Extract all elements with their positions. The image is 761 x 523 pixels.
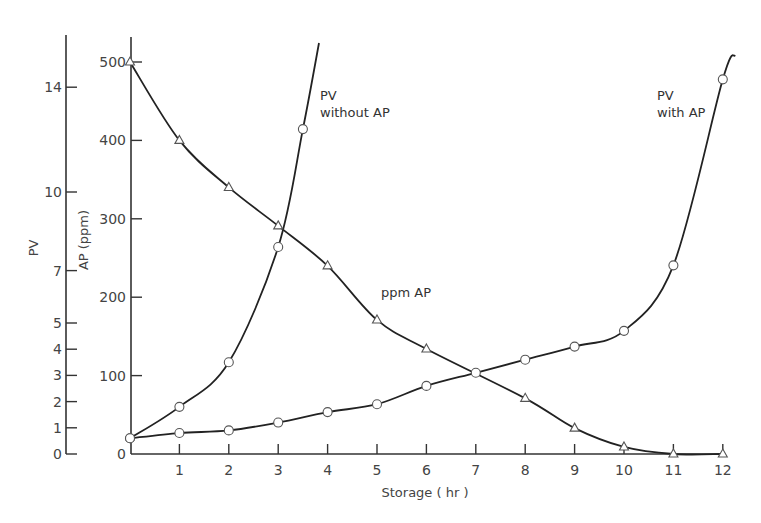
plot-markers [126, 57, 728, 457]
svg-text:300: 300 [99, 211, 126, 227]
svg-text:14: 14 [44, 79, 62, 95]
circle-marker-icon [373, 400, 382, 409]
svg-text:1: 1 [175, 462, 184, 478]
circle-marker-icon [669, 261, 678, 270]
svg-text:4: 4 [323, 462, 332, 478]
pv-without-ap-label: PV [320, 88, 337, 103]
svg-text:500: 500 [99, 54, 126, 70]
circle-marker-icon [620, 326, 629, 335]
svg-text:7: 7 [53, 263, 62, 279]
svg-text:2: 2 [224, 462, 233, 478]
svg-text:0: 0 [53, 446, 62, 462]
pv-without-ap-label: without AP [320, 105, 390, 120]
circle-marker-icon [126, 434, 135, 443]
circle-marker-icon [224, 358, 233, 367]
pv-with-ap-label: PV [657, 88, 674, 103]
svg-text:1: 1 [53, 420, 62, 436]
svg-text:9: 9 [570, 462, 579, 478]
ppm-ap-curve [130, 62, 723, 455]
circle-marker-icon [718, 75, 727, 84]
pv-without-ap-curve [130, 43, 319, 438]
svg-text:400: 400 [99, 132, 126, 148]
circle-marker-icon [570, 342, 579, 351]
svg-text:10: 10 [615, 462, 633, 478]
pv-with-ap-label: with AP [657, 105, 706, 120]
pv-axis-title: PV [26, 240, 41, 257]
svg-text:3: 3 [53, 367, 62, 383]
svg-text:12: 12 [714, 462, 732, 478]
circle-marker-icon [175, 402, 184, 411]
svg-text:5: 5 [53, 315, 62, 331]
circle-marker-icon [521, 355, 530, 364]
circle-marker-icon [274, 418, 283, 427]
circle-marker-icon [422, 381, 431, 390]
x-axis-title: Storage ( hr ) [382, 485, 469, 500]
svg-text:10: 10 [44, 184, 62, 200]
ap-axis-title: AP (ppm) [76, 210, 91, 270]
chart-canvas: 01234571014 0100200300400500 12345678910… [0, 0, 761, 523]
x-axis: 123456789101112 [131, 444, 732, 478]
circle-marker-icon [175, 429, 184, 438]
svg-text:2: 2 [53, 394, 62, 410]
svg-text:0: 0 [117, 446, 126, 462]
svg-text:11: 11 [664, 462, 682, 478]
svg-text:4: 4 [53, 341, 62, 357]
svg-text:6: 6 [422, 462, 431, 478]
ppm-ap-label: ppm AP [381, 285, 431, 300]
circle-marker-icon [471, 368, 480, 377]
triangle-marker-icon [718, 449, 727, 457]
circle-marker-icon [323, 408, 332, 417]
circle-marker-icon [224, 426, 233, 435]
svg-text:7: 7 [471, 462, 480, 478]
svg-text:100: 100 [99, 368, 126, 384]
pv-axis: 01234571014 [44, 35, 77, 462]
circle-marker-icon [274, 243, 283, 252]
ap-axis: 0100200300400500 [99, 37, 142, 462]
triangle-marker-icon [126, 57, 135, 65]
triangle-marker-icon [274, 221, 283, 229]
pv-with-ap-curve [130, 55, 735, 438]
svg-text:8: 8 [521, 462, 530, 478]
svg-text:5: 5 [373, 462, 382, 478]
plot-curves [130, 43, 735, 455]
svg-text:200: 200 [99, 289, 126, 305]
series-annotations: PVwithout APPVwith APppm AP [320, 88, 706, 300]
svg-text:3: 3 [274, 462, 283, 478]
circle-marker-icon [298, 125, 307, 134]
